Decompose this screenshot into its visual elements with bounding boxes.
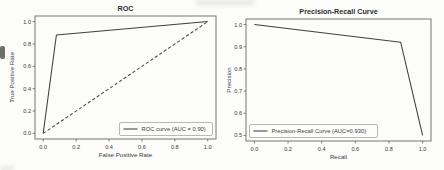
y-tick-label: 0.0 <box>23 130 31 136</box>
x-tick-label: 0.4 <box>105 144 113 150</box>
x-tick-label: 0.2 <box>72 144 80 150</box>
y-tick-label: 0.7 <box>234 88 242 94</box>
y-tick-label: 0.5 <box>234 132 242 138</box>
precision-recall-chart: 0.00.20.40.60.81.00.50.60.70.80.91.0Prec… <box>222 0 444 170</box>
x-tick-label: 0.8 <box>385 146 393 152</box>
scanned-figure: 0.00.20.40.60.81.00.00.20.40.60.81.0ROCF… <box>0 0 444 170</box>
x-tick-label: 0.0 <box>39 144 47 150</box>
x-axis-label: Recall <box>330 153 347 160</box>
x-tick-label: 1.0 <box>204 144 212 150</box>
y-axis-label: Precision <box>225 67 232 93</box>
chart-title: ROC <box>118 4 134 13</box>
x-tick-label: 0.6 <box>351 146 359 152</box>
legend-label: ROC curve (AUC = 0.90) <box>142 126 206 132</box>
x-tick-label: 0.4 <box>318 146 326 152</box>
x-tick-label: 1.0 <box>419 146 427 152</box>
y-tick-label: 0.8 <box>234 66 242 72</box>
y-axis-label: True Positive Rate <box>8 52 15 103</box>
y-tick-label: 0.9 <box>234 44 242 50</box>
legend-label: Precision-Recall Curve (AUC=0.930) <box>272 128 367 134</box>
y-tick-label: 0.8 <box>23 41 31 47</box>
chart-title: Precision-Recall Curve <box>299 7 377 16</box>
x-tick-label: 0.0 <box>251 146 259 152</box>
series-line-solid <box>254 25 422 136</box>
y-tick-label: 0.2 <box>23 108 31 114</box>
y-tick-label: 1.0 <box>23 19 31 25</box>
x-tick-label: 0.2 <box>284 146 292 152</box>
y-tick-label: 0.6 <box>234 110 242 116</box>
roc-chart: 0.00.20.40.60.81.00.00.20.40.60.81.0ROCF… <box>0 0 222 170</box>
plot-spines <box>246 19 431 141</box>
x-tick-label: 0.6 <box>138 144 146 150</box>
series-line-dashed <box>43 22 208 134</box>
y-tick-label: 1.0 <box>234 22 242 28</box>
y-tick-label: 0.4 <box>23 86 31 92</box>
x-tick-label: 0.8 <box>171 144 179 150</box>
x-axis-label: False Positive Rate <box>99 151 153 158</box>
y-tick-label: 0.6 <box>23 63 31 69</box>
